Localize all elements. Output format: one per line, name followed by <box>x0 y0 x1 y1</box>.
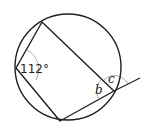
angle-label-c: c <box>108 72 115 86</box>
angle-label-b: b <box>95 83 103 97</box>
cyclic-quadrilateral-diagram: 112° b c <box>0 0 149 128</box>
angle-label-112: 112° <box>20 62 49 76</box>
